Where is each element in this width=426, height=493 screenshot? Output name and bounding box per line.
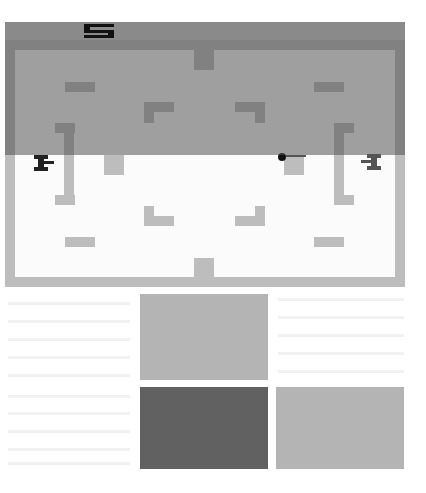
- right-tank-icon: [361, 153, 383, 171]
- ghost-line: [8, 395, 130, 398]
- ghost-line: [8, 412, 130, 415]
- dark-gray-swatch: [140, 387, 268, 469]
- wall-dash-top-right: [314, 82, 344, 92]
- ghost-line: [8, 356, 130, 359]
- ghost-line: [8, 302, 130, 305]
- score-digit: [84, 24, 114, 38]
- wall-l-bottom-left-h: [144, 216, 174, 226]
- wall-frame-bottom: [5, 277, 405, 287]
- wall-dash-top-left: [65, 82, 95, 92]
- wall-l-bottom-right-h: [235, 216, 265, 226]
- wall-l-top-left-v: [144, 102, 154, 123]
- wall-bracket-left-v: [64, 123, 74, 205]
- game-playfield: 5: [5, 22, 405, 287]
- wall-center-top-block: [194, 50, 214, 70]
- wall-l-top-right-v: [255, 102, 265, 123]
- ghost-line: [278, 316, 404, 319]
- ghost-line: [8, 462, 130, 465]
- wall-center-bottom-block: [194, 258, 214, 277]
- wall-bracket-left-bottom: [55, 195, 75, 205]
- wall-mid-block-right: [284, 155, 304, 175]
- wall-frame-right: [395, 40, 405, 287]
- wall-frame-top: [5, 40, 405, 50]
- ghost-line: [8, 430, 130, 433]
- light-gray-swatch: [140, 294, 268, 380]
- light-gray-swatch-2: [276, 387, 404, 469]
- ghost-line: [8, 320, 130, 323]
- wall-bracket-right-bottom: [334, 195, 354, 205]
- score-bar: 5: [5, 22, 405, 40]
- left-tank-icon: [34, 154, 56, 172]
- ghost-line: [8, 374, 130, 377]
- wall-frame-left: [5, 40, 15, 287]
- wall-dash-bottom-left: [65, 237, 95, 247]
- bullet-trail: [286, 155, 306, 157]
- wall-dash-bottom-right: [314, 237, 344, 247]
- ghost-line: [278, 352, 404, 355]
- bullet-icon: [278, 153, 286, 161]
- wall-bracket-right-v: [334, 123, 344, 205]
- ghost-line: [278, 370, 404, 373]
- wall-mid-block-left: [104, 155, 124, 175]
- ghost-line: [278, 334, 404, 337]
- ghost-line: [278, 298, 404, 301]
- ghost-line: [8, 338, 130, 341]
- ghost-line: [8, 448, 130, 451]
